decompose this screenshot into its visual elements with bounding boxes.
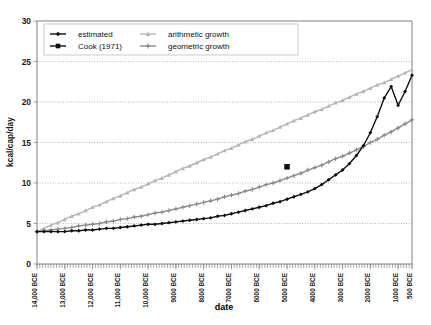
x-tick-label-500: 500 BCE — [406, 272, 413, 299]
legend-label-arithmetic-growth: arithmetic growth — [168, 30, 229, 39]
x-tick-label-5000: 5000 BCE — [281, 272, 288, 302]
x-tick-label-3000: 3000 BCE — [337, 272, 344, 302]
y-tick-label-30: 30 — [22, 16, 32, 26]
x-tick-label-12000: 12,000 BCE — [87, 272, 95, 308]
x-tick-label-6000: 6000 BCE — [253, 272, 260, 302]
x-axis-title: date — [215, 302, 234, 312]
legend-label-estimated: estimated — [78, 30, 113, 39]
y-tick-label-0: 0 — [26, 259, 31, 269]
x-tick-label-2000: 2000 BCE — [364, 272, 371, 302]
cook-1971-data-point — [284, 164, 290, 170]
y-tick-label-25: 25 — [22, 57, 32, 67]
y-tick-label-15: 15 — [22, 138, 32, 148]
y-tick-label-5: 5 — [26, 219, 31, 229]
x-tick-label-1000: 1000 BCE — [392, 272, 399, 302]
x-tick-label-11000: 11,000 BCE — [114, 272, 122, 307]
y-tick-label-10: 10 — [22, 178, 32, 188]
chart-container: 051015202530 14,000 BCE13,000 BCE12,000 … — [0, 0, 431, 325]
legend-marker-square-icon — [56, 44, 61, 49]
y-axis-title: kcal/cap/day — [5, 117, 15, 167]
x-tick-label-9000: 9000 BCE — [170, 272, 177, 302]
x-tick-label-8000: 8000 BCE — [198, 272, 205, 302]
chart-legend: estimatedCook (1971)arithmetic growthgeo… — [44, 24, 298, 55]
legend-label-cook-1971-: Cook (1971) — [78, 42, 122, 51]
legend-label-geometric-growth: geometric growth — [168, 42, 229, 51]
x-tick-label-10000: 10,000 BCE — [142, 272, 150, 308]
x-tick-label-14000: 14,000 BCE — [31, 272, 39, 308]
x-tick-label-13000: 13,000 BCE — [59, 272, 67, 308]
scatter-points-layer — [284, 164, 290, 170]
x-tick-label-4000: 4000 BCE — [309, 272, 316, 302]
y-tick-label-20: 20 — [22, 97, 32, 107]
kcal-per-cap-per-day-line-chart: 051015202530 14,000 BCE13,000 BCE12,000 … — [0, 0, 431, 325]
x-tick-label-7000: 7000 BCE — [225, 272, 232, 302]
